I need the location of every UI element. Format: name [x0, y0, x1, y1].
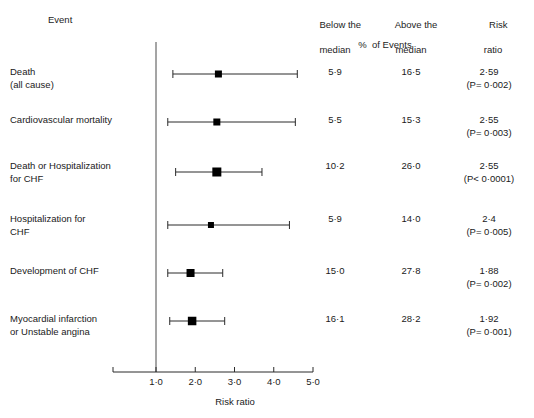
- ci-row-4: [168, 269, 223, 277]
- x-axis-tick-label-2: 3·0: [220, 376, 250, 387]
- ci-row-2: [176, 168, 262, 177]
- x-axis-tick-label-4: 5·0: [298, 376, 328, 387]
- forest-plot-canvas: [0, 0, 534, 418]
- confidence-interval-group: [168, 70, 298, 325]
- ci-row-0: [173, 70, 297, 78]
- x-axis-group: [113, 367, 313, 372]
- point-estimate-marker-row-2: [212, 168, 221, 177]
- point-estimate-marker-row-1: [213, 119, 220, 126]
- point-estimate-marker-row-3: [208, 222, 214, 228]
- point-estimate-marker-row-4: [187, 269, 195, 277]
- forest-plot-figure: Event Below the median Above the median …: [0, 0, 534, 418]
- ci-row-5: [170, 317, 225, 326]
- ci-row-1: [168, 118, 296, 126]
- point-estimate-marker-row-0: [215, 71, 222, 78]
- x-axis-tick-label-1: 2·0: [180, 376, 210, 387]
- x-axis-title: Risk ratio: [175, 396, 295, 407]
- x-axis-tick-label-0: 1·0: [141, 376, 171, 387]
- x-axis-tick-label-3: 4·0: [259, 376, 289, 387]
- ci-row-3: [168, 221, 290, 229]
- point-estimate-marker-row-5: [188, 317, 197, 326]
